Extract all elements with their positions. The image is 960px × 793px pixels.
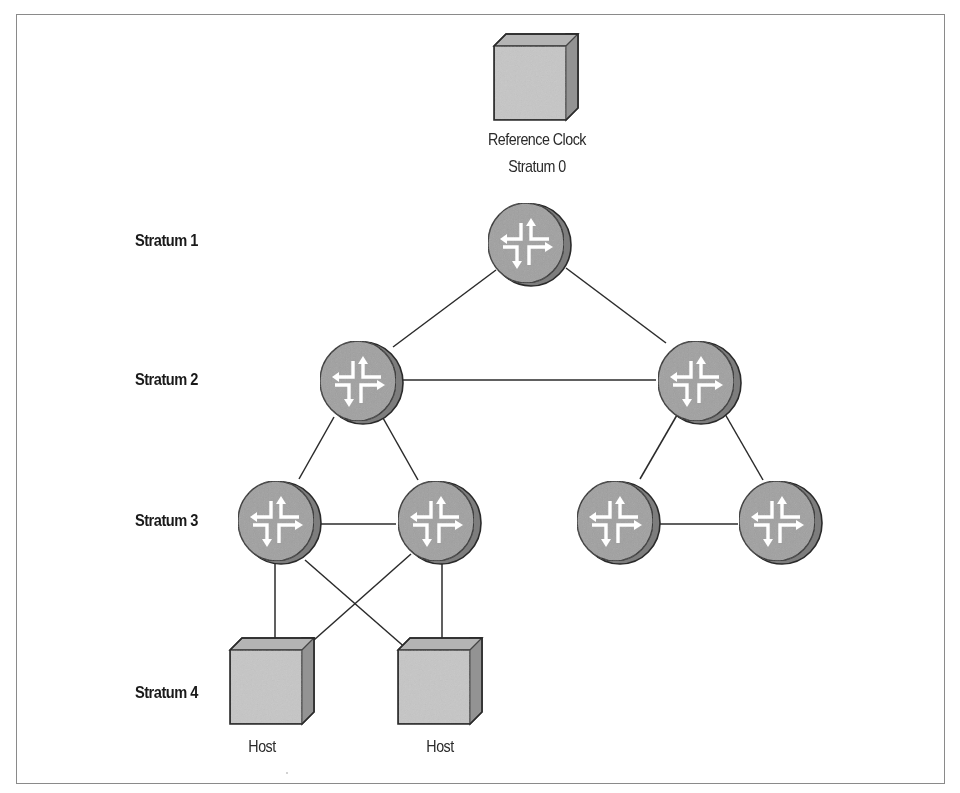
host-left-cube-icon	[230, 638, 314, 724]
router-icon-stratum3-b	[398, 481, 481, 564]
link-s1-s2right	[566, 268, 666, 343]
router-icon-stratum3-d	[739, 481, 822, 564]
reference-clock-cube-icon	[494, 34, 578, 120]
stratum3-label: Stratum 3	[135, 511, 198, 531]
host-left-label: Host	[235, 737, 289, 757]
link-s3a-hostright	[305, 560, 408, 650]
stratum1-label: Stratum 1	[135, 231, 198, 251]
stray-dot	[286, 772, 288, 774]
reference-clock-label: Reference Clock	[474, 130, 600, 150]
link-s1-s2left	[393, 270, 496, 347]
stratum2-label: Stratum 2	[135, 370, 198, 390]
link-s2left-s3b	[383, 418, 418, 480]
link-s2left-s3a	[299, 417, 334, 479]
stratum0-label: Stratum 0	[474, 157, 600, 177]
stratum4-label: Stratum 4	[135, 683, 198, 703]
router-icon-stratum1	[488, 203, 571, 286]
router-icon-stratum3-c	[577, 481, 660, 564]
host-right-cube-icon	[398, 638, 482, 724]
link-s2right-s3d	[725, 414, 763, 480]
router-icon-stratum2-left	[320, 341, 403, 424]
link-s2right-s3c	[640, 415, 677, 479]
stratum-diagram	[0, 0, 960, 793]
router-icon-stratum2-right	[658, 341, 741, 424]
links	[275, 268, 763, 650]
link-s3b-hostleft	[314, 554, 411, 640]
router-icon-stratum3-a	[238, 481, 321, 564]
host-right-label: Host	[413, 737, 467, 757]
